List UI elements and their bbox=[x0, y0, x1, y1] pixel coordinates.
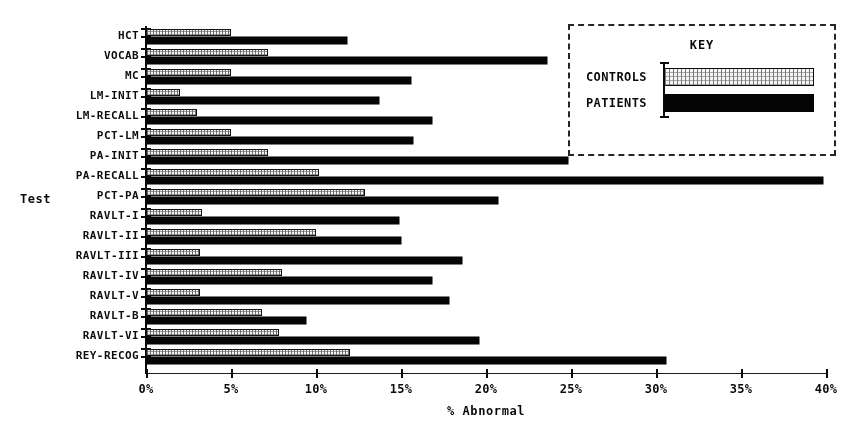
x-axis-tick-label: 20% bbox=[475, 383, 498, 395]
y-axis-tick-label: RAVLT-IV bbox=[83, 270, 139, 281]
bar-controls bbox=[146, 29, 231, 36]
bar-patients bbox=[146, 137, 413, 144]
y-axis-tick-label: RAVLT-VI bbox=[83, 330, 139, 341]
bar-controls bbox=[146, 109, 197, 116]
bar-group bbox=[146, 208, 826, 227]
bar-controls bbox=[146, 269, 282, 276]
x-tick-mark bbox=[571, 369, 573, 378]
bar-controls bbox=[146, 169, 319, 176]
bar-patients bbox=[146, 337, 479, 344]
y-axis-tick-label: PA-RECALL bbox=[76, 170, 139, 181]
x-tick-mark bbox=[316, 369, 318, 378]
bar-controls bbox=[146, 129, 231, 136]
x-tick-mark bbox=[826, 369, 828, 378]
bar-patients bbox=[146, 297, 449, 304]
bar-controls bbox=[146, 209, 202, 216]
legend-swatch-patients bbox=[664, 94, 814, 112]
bar-patients bbox=[146, 37, 347, 44]
bar-controls bbox=[146, 49, 268, 56]
x-axis-tick-label: 25% bbox=[560, 383, 583, 395]
bar-group bbox=[146, 328, 826, 347]
bar-patients bbox=[146, 217, 399, 224]
bar-group bbox=[146, 268, 826, 287]
bar-group bbox=[146, 288, 826, 307]
bar-patients bbox=[146, 357, 666, 364]
bar-controls bbox=[146, 289, 200, 296]
bar-controls bbox=[146, 349, 350, 356]
x-axis-tick-label: 40% bbox=[815, 383, 838, 395]
x-axis-tick-label: 35% bbox=[730, 383, 753, 395]
bar-controls bbox=[146, 189, 365, 196]
y-axis-tick-label: HCT bbox=[118, 30, 139, 41]
y-axis-tick-label: PA-INIT bbox=[90, 150, 139, 161]
bar-controls bbox=[146, 149, 268, 156]
bar-patients bbox=[146, 57, 547, 64]
bar-chart: Test HCTVOCABMCLM-INITLM-RECALLPCT-LMPA-… bbox=[0, 0, 851, 440]
bar-patients bbox=[146, 317, 306, 324]
legend-label-patients: PATIENTS bbox=[586, 96, 664, 110]
x-tick-mark bbox=[231, 369, 233, 378]
bar-patients bbox=[146, 177, 823, 184]
x-axis-tick-label: 10% bbox=[305, 383, 328, 395]
bar-controls bbox=[146, 89, 180, 96]
x-axis-tick-label: 30% bbox=[645, 383, 668, 395]
y-axis-tick-label: RAVLT-V bbox=[90, 290, 139, 301]
bar-group bbox=[146, 248, 826, 267]
bar-controls bbox=[146, 69, 231, 76]
x-tick-mark bbox=[146, 369, 148, 378]
y-axis-tick-label: REY-RECOG bbox=[76, 350, 139, 361]
y-axis-tick-label: RAVLT-II bbox=[83, 230, 139, 241]
x-axis-tick-label: 0% bbox=[138, 383, 153, 395]
legend-item-controls: CONTROLS bbox=[586, 64, 822, 90]
x-tick-mark bbox=[741, 369, 743, 378]
legend-item-patients: PATIENTS bbox=[586, 90, 822, 116]
bar-group bbox=[146, 228, 826, 247]
y-axis-labels: HCTVOCABMCLM-INITLM-RECALLPCT-LMPA-INITP… bbox=[0, 28, 139, 368]
y-axis-tick-label: PCT-LM bbox=[97, 130, 139, 141]
bar-group bbox=[146, 188, 826, 207]
bar-patients bbox=[146, 237, 401, 244]
bar-group bbox=[146, 308, 826, 327]
bar-controls bbox=[146, 229, 316, 236]
bar-group bbox=[146, 348, 826, 367]
y-axis-tick-label: RAVLT-I bbox=[90, 210, 139, 221]
legend-swatch-controls bbox=[664, 68, 814, 86]
y-axis-tick-label: MC bbox=[125, 70, 139, 81]
bar-patients bbox=[146, 197, 498, 204]
bar-patients bbox=[146, 257, 462, 264]
y-axis-tick-label: VOCAB bbox=[104, 50, 139, 61]
x-axis-title: % Abnormal bbox=[146, 404, 826, 418]
bar-controls bbox=[146, 329, 279, 336]
legend: KEY CONTROLS PATIENTS bbox=[568, 24, 836, 156]
bar-patients bbox=[146, 97, 379, 104]
legend-label-controls: CONTROLS bbox=[586, 70, 664, 84]
bar-patients bbox=[146, 117, 432, 124]
y-axis-tick-label: RAVLT-III bbox=[76, 250, 139, 261]
bar-group bbox=[146, 168, 826, 187]
bar-patients bbox=[146, 277, 432, 284]
bar-controls bbox=[146, 309, 262, 316]
x-axis-tick-label: 5% bbox=[223, 383, 238, 395]
bar-controls bbox=[146, 249, 200, 256]
legend-title: KEY bbox=[570, 38, 834, 52]
x-axis-tick-label: 15% bbox=[390, 383, 413, 395]
y-axis-tick-label: LM-INIT bbox=[90, 90, 139, 101]
x-tick-mark bbox=[486, 369, 488, 378]
bar-patients bbox=[146, 157, 568, 164]
bar-patients bbox=[146, 77, 411, 84]
x-tick-mark bbox=[656, 369, 658, 378]
y-axis-tick-label: RAVLT-B bbox=[90, 310, 139, 321]
y-axis-tick-label: LM-RECALL bbox=[76, 110, 139, 121]
x-tick-mark bbox=[401, 369, 403, 378]
y-axis-tick-label: PCT-PA bbox=[97, 190, 139, 201]
